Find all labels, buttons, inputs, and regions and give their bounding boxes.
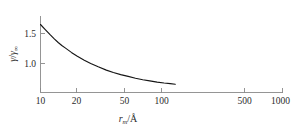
x-tick-label-500: 500 (237, 96, 252, 106)
x-tick-label-1000: 1000 (271, 96, 290, 106)
x-axis-title-unit: Å (130, 113, 138, 124)
x-tick-label-50: 50 (120, 96, 130, 106)
x-tick-label-100: 100 (154, 96, 169, 106)
y-axis-title-denominator-subscript: ∞ (12, 46, 19, 51)
chart-plot: 1.5 1.0 10 20 50 100 500 1000 rm/Å γ/γ∞ (0, 0, 291, 130)
figure-container: 1.5 1.0 10 20 50 100 500 1000 rm/Å γ/γ∞ (0, 0, 291, 130)
svg-text:rm/Å: rm/Å (119, 113, 138, 125)
x-axis-title: rm/Å (119, 113, 138, 125)
y-tick-label-1.0: 1.0 (24, 59, 36, 69)
x-tick-label-20: 20 (72, 96, 82, 106)
plot-background (0, 0, 291, 130)
y-tick-label-1.5: 1.5 (24, 29, 36, 39)
x-tick-label-10: 10 (36, 96, 46, 106)
